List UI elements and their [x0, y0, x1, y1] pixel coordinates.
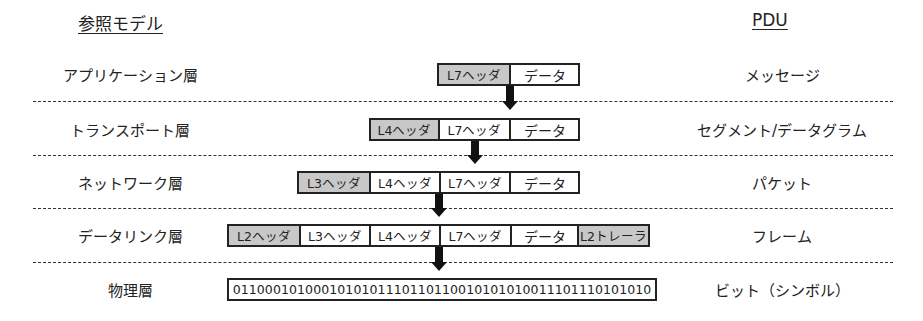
down-arrow-icon — [467, 141, 483, 164]
pdu-stack-application: L7ヘッダ データ — [437, 63, 580, 86]
pdu-physical: ビット（シンボル） — [672, 279, 892, 300]
cell-l7-header: L7ヘッダ — [439, 171, 511, 194]
cell-bit-stream: 0110001010001010101110110110010101010011… — [227, 278, 657, 301]
pdu-stack-datalink: L2ヘッダ L3ヘッダ L4ヘッダ L7ヘッダ データ L2トレーラ — [227, 224, 650, 247]
pdu-application: メッセージ — [672, 64, 892, 85]
pdu-network: パケット — [672, 172, 892, 193]
cell-data: データ — [510, 224, 579, 247]
cell-l4-header: L4ヘッダ — [369, 118, 440, 141]
cell-l7-header: L7ヘッダ — [439, 224, 512, 247]
layer-name-application: アプリケーション層 — [20, 64, 240, 85]
cell-l3-header: L3ヘッダ — [297, 171, 371, 194]
pdu-header: PDU — [752, 10, 788, 30]
layer-name-datalink: データリンク層 — [20, 225, 240, 246]
pdu-transport: セグメント/データグラム — [672, 119, 892, 140]
separator — [33, 262, 893, 263]
cell-l4-header: L4ヘッダ — [369, 224, 441, 247]
separator — [33, 101, 893, 102]
layer-name-physical: 物理層 — [20, 279, 240, 300]
cell-l2-trailer: L2トレーラ — [577, 224, 650, 247]
reference-model-header: 参照モデル — [78, 10, 163, 35]
pdu-datalink: フレーム — [672, 225, 892, 246]
separator — [33, 208, 893, 209]
cell-data: データ — [509, 171, 580, 194]
cell-l3-header: L3ヘッダ — [299, 224, 371, 247]
cell-data: データ — [509, 63, 580, 86]
cell-l4-header: L4ヘッダ — [369, 171, 441, 194]
layer-name-network: ネットワーク層 — [20, 172, 240, 193]
layer-name-transport: トランスポート層 — [20, 119, 240, 140]
separator — [33, 155, 893, 156]
down-arrow-icon — [502, 86, 518, 110]
pdu-stack-physical: 0110001010001010101110110110010101010011… — [227, 278, 657, 301]
down-arrow-icon — [431, 247, 447, 271]
down-arrow-icon — [431, 194, 447, 217]
pdu-stack-transport: L4ヘッダ L7ヘッダ データ — [369, 118, 580, 141]
cell-l7-header: L7ヘッダ — [438, 118, 511, 141]
cell-l7-header: L7ヘッダ — [437, 63, 511, 86]
cell-l2-header: L2ヘッダ — [227, 224, 301, 247]
cell-data: データ — [509, 118, 580, 141]
pdu-stack-network: L3ヘッダ L4ヘッダ L7ヘッダ データ — [297, 171, 580, 194]
